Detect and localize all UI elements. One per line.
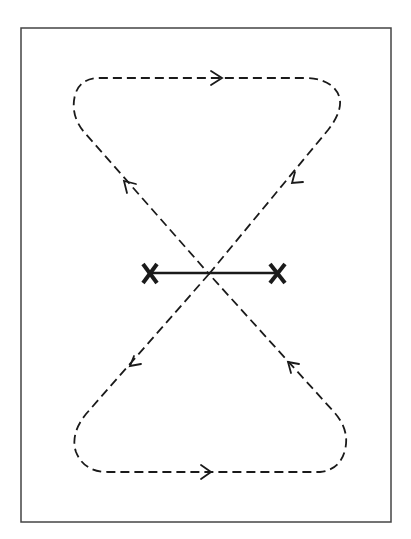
arrow-up-left-icon: [124, 181, 136, 193]
arrow-down-left-icon: [130, 356, 141, 366]
upper-loop: [74, 78, 340, 274]
arrow-down-left-icon: [292, 172, 303, 183]
figure-eight-diagram: [0, 0, 411, 539]
lower-loop: [74, 274, 346, 472]
flight-path: [74, 78, 347, 472]
diagram-frame: [21, 28, 391, 522]
